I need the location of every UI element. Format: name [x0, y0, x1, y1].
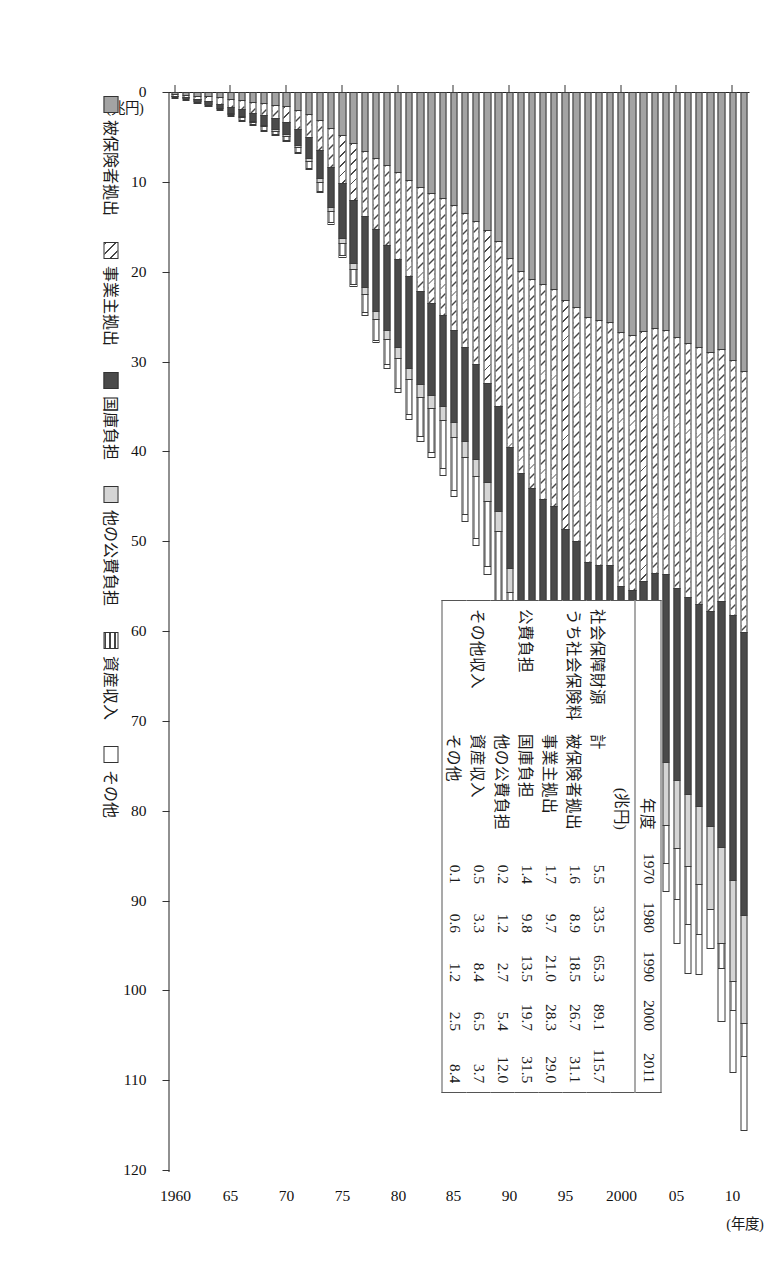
x-axis-tick-label: 1960	[159, 1187, 190, 1205]
seg-jigyonushi	[260, 103, 267, 116]
seg-hokensha	[394, 92, 401, 172]
table-year-header: 1990	[635, 942, 661, 991]
seg-shisan	[316, 182, 323, 191]
seg-shisan	[427, 408, 434, 452]
seg-kokko	[517, 473, 524, 600]
y-axis-tick	[162, 990, 169, 991]
seg-takouhi	[439, 406, 446, 420]
seg-shisan	[717, 943, 724, 968]
y-axis-tick	[162, 362, 169, 363]
x-axis-tick	[731, 85, 732, 92]
bar-1965	[227, 92, 234, 117]
bar-1979	[383, 92, 390, 369]
x-axis-tick	[397, 85, 398, 92]
y-axis-tick-label: 110	[106, 1071, 146, 1089]
x-axis-tick	[174, 85, 175, 92]
seg-takouhi	[427, 395, 434, 408]
bar-1978	[372, 92, 379, 343]
table-year-header: 2000	[635, 991, 661, 1040]
x-axis-unit-label: (年度)	[726, 1212, 764, 1233]
seg-kokko	[461, 347, 468, 440]
table-unit-blank-cell	[610, 844, 635, 893]
seg-sonota	[361, 312, 368, 316]
seg-kokko	[706, 611, 713, 826]
bar-1971	[294, 92, 301, 154]
seg-jigyonushi	[271, 105, 278, 118]
legend-item-0: 被保険者拠出	[99, 96, 123, 216]
table-cell: 89.1	[586, 991, 610, 1040]
seg-sonota	[271, 134, 278, 136]
seg-shisan	[461, 457, 468, 514]
bar-1982	[416, 92, 423, 442]
x-axis-tick	[564, 85, 565, 92]
seg-takouhi	[740, 915, 747, 1023]
table-row: 公費負担国庫負担1.49.813.519.731.5	[514, 601, 538, 1093]
table-cell: 29.0	[538, 1040, 562, 1093]
table-cell: 9.8	[514, 893, 538, 942]
seg-kokko	[717, 601, 724, 847]
table-row-sub-label: 事業主拠出	[538, 730, 562, 844]
table-row-group-label: 社会保障財源	[586, 601, 610, 731]
seg-shisan	[684, 866, 691, 923]
table-unit-blank-cell	[610, 893, 635, 942]
table-cell: 6.5	[466, 991, 490, 1040]
seg-takouhi	[472, 459, 479, 476]
summary-table: 年度19701980199020002011(兆円)社会保障財源計5.533.5…	[441, 600, 661, 1093]
chart-legend: 被保険者拠出事業主拠出国庫負担他の公費負担資産収入その他	[99, 96, 123, 818]
bar-1962	[193, 92, 200, 104]
seg-sonota	[394, 388, 401, 393]
seg-hokensha	[450, 92, 457, 205]
seg-jigyonushi	[439, 198, 446, 315]
x-axis-tick-label: 80	[390, 1187, 406, 1205]
table-cell: 12.0	[490, 1040, 514, 1093]
seg-jigyonushi	[483, 230, 490, 383]
seg-takouhi	[729, 880, 736, 982]
seg-jigyonushi	[729, 360, 736, 615]
seg-hokensha	[483, 92, 490, 230]
bar-1973	[316, 92, 323, 193]
seg-kokko	[684, 597, 691, 794]
bar-2008	[706, 92, 713, 949]
bar-1985	[450, 92, 457, 497]
seg-hokensha	[673, 92, 680, 337]
seg-kokko	[416, 291, 423, 384]
seg-jigyonushi	[651, 328, 658, 572]
seg-sonota	[673, 899, 680, 945]
bar-2007	[695, 92, 702, 975]
seg-jigyonushi	[461, 213, 468, 347]
table-cell: 0.6	[442, 893, 467, 942]
seg-kokko	[729, 615, 736, 880]
seg-jigyonushi	[740, 371, 747, 632]
seg-shisan	[416, 397, 423, 437]
seg-hokensha	[595, 92, 602, 320]
legend-item-2: 国庫負担	[99, 372, 123, 460]
seg-shisan	[361, 294, 368, 312]
seg-takouhi	[684, 794, 691, 867]
seg-kokko	[271, 118, 278, 129]
bar-1968	[260, 92, 267, 132]
table-row-group-label: 公費負担	[514, 601, 538, 731]
seg-jigyonushi	[416, 187, 423, 291]
x-axis-tick	[229, 85, 230, 92]
table-cell: 19.7	[514, 991, 538, 1040]
seg-takouhi	[405, 368, 412, 380]
legend-swatch-icon	[104, 746, 119, 763]
seg-sonota	[249, 124, 256, 126]
table-cell: 115.7	[586, 1040, 610, 1093]
seg-kokko	[506, 447, 513, 568]
seg-jigyonushi	[349, 143, 356, 200]
table-cell: 31.5	[514, 1040, 538, 1093]
table-unit-blank-cell	[610, 1040, 635, 1093]
table-row-group-label	[538, 601, 562, 731]
table-cell: 3.7	[466, 1040, 490, 1093]
table-cell: 1.6	[562, 844, 586, 893]
legend-swatch-icon	[104, 486, 119, 503]
table-cell: 0.2	[490, 844, 514, 893]
table-unit-blank-cell	[610, 991, 635, 1040]
seg-hokensha	[506, 92, 513, 258]
bar-1960	[171, 92, 178, 99]
bar-1974	[327, 92, 334, 225]
table-corner-group	[635, 601, 661, 731]
seg-hokensha	[472, 92, 479, 221]
y-axis-tick	[162, 1080, 169, 1081]
